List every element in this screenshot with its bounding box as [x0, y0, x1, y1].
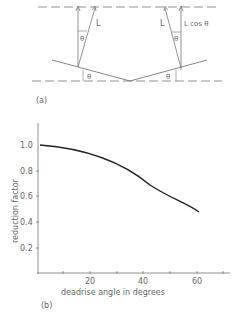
reduction-factor-curve	[40, 145, 199, 212]
v-hull-line	[52, 60, 207, 81]
svg-text:20: 20	[85, 277, 95, 286]
y-axis-label: reduction factor	[11, 178, 20, 243]
svg-text:0.2: 0.2	[20, 244, 33, 253]
angle-label: θ	[166, 73, 170, 81]
svg-text:0.6: 0.6	[20, 192, 33, 201]
panel-label-b: (b)	[41, 301, 52, 310]
angle-label: θ	[80, 35, 84, 43]
svg-text:1.0: 1.0	[20, 141, 33, 150]
svg-text:40: 40	[138, 277, 148, 286]
svg-text:0.8: 0.8	[20, 167, 33, 176]
figure: L L L cos θ θ θ θ θ (a) 1.0 0.8 0.6 0.4 …	[0, 0, 244, 316]
figure-a-diagram	[32, 6, 222, 81]
chart-axes	[36, 123, 230, 274]
y-tick-labels: 1.0 0.8 0.6 0.4 0.2	[20, 141, 33, 253]
projection-label: L cos θ	[184, 20, 208, 28]
angle-label: θ	[87, 73, 91, 81]
left-vector-label: L	[96, 19, 101, 28]
x-tick-labels: 20 40 60	[85, 277, 202, 286]
svg-text:0.4: 0.4	[20, 218, 33, 227]
panel-label-a: (a)	[36, 96, 47, 105]
right-slant-arrow	[165, 8, 181, 68]
x-axis-label: deadrise angle in degrees	[61, 288, 165, 297]
angle-label: θ	[174, 35, 178, 43]
svg-text:60: 60	[192, 277, 202, 286]
right-vector-label: L	[160, 19, 165, 28]
